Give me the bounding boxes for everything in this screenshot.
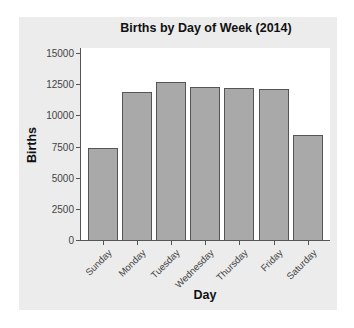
y-tick-label: 5000	[52, 172, 74, 183]
y-tick-label: 0	[68, 235, 74, 246]
bar-wednesday	[190, 87, 220, 241]
y-tick-label: 2500	[52, 203, 74, 214]
x-axis-title: Day	[194, 288, 217, 302]
bar-sunday	[88, 148, 118, 241]
bar-monday	[122, 92, 152, 241]
chart-title: Births by Day of Week (2014)	[82, 21, 330, 35]
bar-friday	[259, 89, 289, 241]
x-tick	[171, 241, 172, 245]
y-tick-label: 15000	[46, 48, 74, 59]
x-tick	[137, 241, 138, 245]
y-axis-title: Births	[25, 127, 39, 163]
x-tick	[274, 241, 275, 245]
x-axis	[80, 240, 330, 241]
bar-saturday	[293, 135, 323, 241]
x-tick	[103, 241, 104, 245]
y-tick-label: 12500	[46, 79, 74, 90]
x-tick	[239, 241, 240, 245]
bar-tuesday	[156, 82, 186, 241]
x-tick	[308, 241, 309, 245]
y-tick-label: 7500	[52, 141, 74, 152]
bar-thursday	[224, 88, 254, 241]
x-tick	[205, 241, 206, 245]
y-axis	[80, 48, 81, 241]
y-tick-label: 10000	[46, 110, 74, 121]
